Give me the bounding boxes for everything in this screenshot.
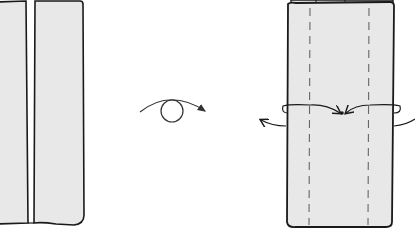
center-dot [340, 111, 344, 115]
step-left-paper [0, 1, 84, 225]
origami-diagram [0, 0, 415, 236]
turn-over-icon [140, 100, 205, 122]
